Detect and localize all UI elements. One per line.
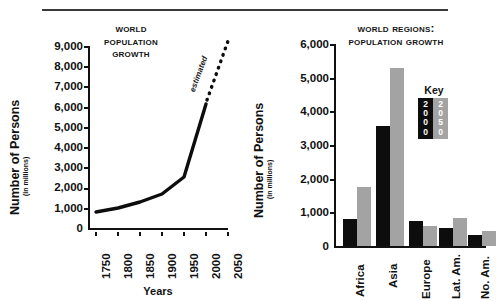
right-chart-x-axis-line (334, 246, 486, 248)
right-x-category-label-asia: Asia (387, 264, 399, 288)
key-swatch-2000: 2000 (418, 98, 433, 139)
bar-lat-am-2000 (439, 228, 453, 246)
right-x-category-label-no-am: No. Am. (479, 256, 491, 299)
right-y-tick-label-4000: 4,000 (269, 105, 329, 117)
bar-no-am-2050 (482, 231, 496, 246)
right-chart-title-line-1: World Regions: (306, 22, 486, 35)
left-chart-plot-area (0, 0, 246, 301)
key-swatches: 2000 2050 (418, 98, 448, 139)
right-x-category-label-africa: Africa (354, 264, 366, 297)
bar-asia-2000 (376, 126, 390, 246)
key-swatch-2050: 2050 (433, 98, 448, 139)
right-chart-world-regions-population-growth: World Regions: Population Growth Number … (246, 0, 493, 301)
right-chart-y-axis-title-text: Number of Persons (252, 103, 266, 218)
right-chart-key: Key 2000 2050 (418, 84, 450, 142)
right-y-tick-label-6000: 6,000 (269, 38, 329, 50)
bar-lat-am-2050 (453, 218, 467, 246)
bar-no-am-2000 (468, 235, 482, 246)
right-y-tick-label-1000: 1,000 (269, 206, 329, 218)
right-x-category-label-lat-am: Lat. Am. (450, 254, 462, 299)
line-series-estimated (207, 41, 228, 100)
right-y-tick-label-2000: 2,000 (269, 173, 329, 185)
right-chart-plot-area (334, 44, 486, 246)
bar-europe-2000 (409, 221, 423, 246)
right-y-tick-label-3000: 3,000 (269, 139, 329, 151)
key-swatch-2000-label: 2000 (418, 100, 433, 137)
bar-africa-2050 (357, 187, 371, 246)
left-chart-world-population-growth: World Population Growth Number of Person… (0, 0, 246, 301)
key-swatch-2050-label: 2050 (433, 100, 448, 137)
right-chart-y-axis-title: Number of Persons (252, 103, 266, 218)
right-y-tick-label-0: 0 (269, 240, 329, 252)
line-series-actual (96, 104, 206, 212)
right-y-tick-label-5000: 5,000 (269, 72, 329, 84)
bar-africa-2000 (343, 219, 357, 246)
right-x-category-label-europe: Europe (420, 259, 432, 299)
bar-europe-2050 (423, 226, 437, 246)
key-title: Key (418, 84, 450, 96)
bar-asia-2050 (390, 68, 404, 246)
